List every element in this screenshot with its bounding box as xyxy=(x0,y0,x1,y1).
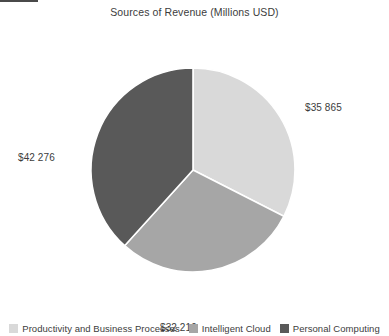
data-label-personal-computing: $42 276 xyxy=(18,152,55,163)
legend-label-productivity-and-business-processes: Productivity and Business Processes xyxy=(22,323,180,334)
legend-label-intelligent-cloud: Intelligent Cloud xyxy=(202,323,271,334)
cut-off-top-bar xyxy=(0,0,38,2)
legend-label-personal-computing: Personal Computing xyxy=(293,323,380,334)
pie-chart-plot-area: $35 865 $42 276 $32 219 xyxy=(0,22,389,314)
legend-item-personal-computing[interactable]: Personal Computing xyxy=(280,323,380,334)
legend-item-productivity-and-business-processes[interactable]: Productivity and Business Processes xyxy=(9,323,180,334)
legend-swatch-icon-personal-computing xyxy=(280,324,289,333)
chart-legend: Productivity and Business Processes Inte… xyxy=(0,320,389,336)
data-label-productivity-and-business-processes: $35 865 xyxy=(305,102,342,113)
legend-item-intelligent-cloud[interactable]: Intelligent Cloud xyxy=(189,323,271,334)
chart-title: Sources of Revenue (Millions USD) xyxy=(0,6,389,18)
pie-chart-svg xyxy=(0,22,389,314)
legend-swatch-icon-productivity-and-business-processes xyxy=(9,324,18,333)
pie-slices xyxy=(91,68,295,272)
legend-swatch-icon-intelligent-cloud xyxy=(189,324,198,333)
